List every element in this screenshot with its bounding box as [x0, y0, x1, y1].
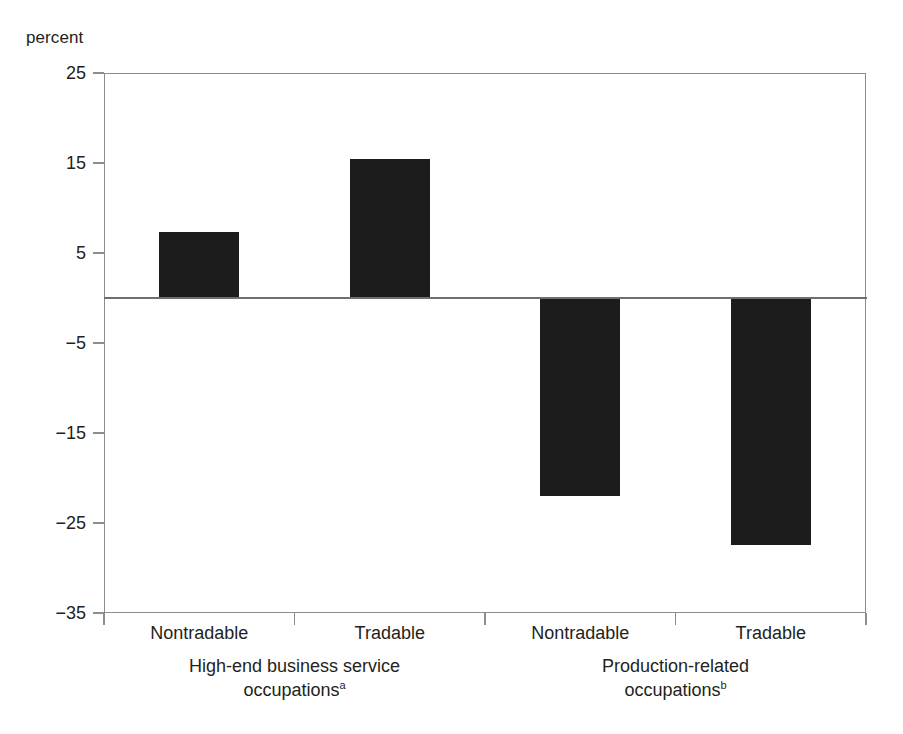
y-axis-tick-label: −15	[0, 423, 86, 444]
y-axis-tick-label: 25	[0, 63, 86, 84]
x-axis-group-label: High-end business serviceoccupationsa	[189, 655, 400, 703]
bar-chart-figure: percent 25155−5−15−25−35 NontradableTrad…	[0, 0, 903, 734]
zero-baseline	[104, 297, 867, 299]
bar	[350, 159, 430, 298]
x-axis-category-label: Tradable	[736, 623, 806, 644]
x-axis-group-label: Production-relatedoccupationsb	[602, 655, 749, 703]
y-axis-tick	[93, 432, 104, 433]
x-axis-category-label: Tradable	[355, 623, 425, 644]
bar	[540, 298, 620, 496]
y-axis-tick	[93, 72, 104, 73]
y-axis-tick	[93, 162, 104, 163]
x-axis-category-label: Nontradable	[531, 623, 629, 644]
y-axis-tick-label: −5	[0, 333, 86, 354]
y-axis-tick-label: −35	[0, 603, 86, 624]
y-axis-tick	[93, 342, 104, 343]
x-axis-category-label: Nontradable	[150, 623, 248, 644]
x-axis-tick	[103, 613, 104, 625]
y-axis-tick-label: 5	[0, 243, 86, 264]
y-axis-unit-label: percent	[26, 28, 83, 48]
bar	[731, 298, 811, 545]
y-axis-tick-label: 15	[0, 153, 86, 174]
x-axis-tick	[675, 613, 676, 625]
bar	[159, 232, 239, 298]
y-axis-tick-label: −25	[0, 513, 86, 534]
x-axis-tick	[865, 613, 866, 625]
y-axis-tick	[93, 522, 104, 523]
x-axis-tick	[294, 613, 295, 625]
y-axis-tick	[93, 252, 104, 253]
x-axis-tick	[484, 613, 485, 625]
